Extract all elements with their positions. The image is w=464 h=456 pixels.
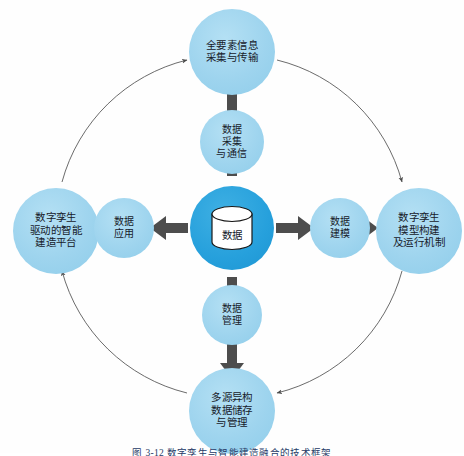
outer-node-line: 与管理 <box>216 417 247 429</box>
outer-node-line: 驱动的智能 <box>30 225 82 237</box>
inner-node-data-application[interactable]: 数据 应用 <box>94 198 154 258</box>
inner-node-data-management[interactable]: 数据 管理 <box>202 285 262 345</box>
outer-node-line: 数字孪生 <box>35 212 77 224</box>
inner-node-data-collection[interactable]: 数据 采集 与通信 <box>200 110 264 174</box>
outer-node-twin-model-construction[interactable]: 数字孪生 模型构建 及运行机制 <box>376 188 462 274</box>
center-node-data[interactable]: 数据 <box>190 186 274 270</box>
inner-node-line: 数据 <box>222 303 243 315</box>
figure-caption: 图 3-12 数字孪生与智能建造融合的技术框架 <box>0 445 464 456</box>
inner-node-line: 管理 <box>222 315 243 327</box>
inner-node-line: 与通信 <box>216 148 247 160</box>
outer-node-heterogeneous-data-storage[interactable]: 多源异构 数据储存 与管理 <box>189 368 275 454</box>
inner-node-line: 数据 <box>330 216 351 228</box>
outer-node-line: 采集与传输 <box>206 52 258 64</box>
outer-node-line: 全要素信息 <box>206 40 258 52</box>
inner-node-line: 数据 <box>222 124 243 136</box>
outer-node-element-info-acquisition[interactable]: 全要素信息 采集与传输 <box>189 9 275 95</box>
inner-node-line: 数据 <box>114 216 135 228</box>
inner-node-line: 建模 <box>330 228 351 240</box>
outer-node-line: 模型构建 <box>398 225 440 237</box>
outer-node-twin-driven-platform[interactable]: 数字孪生 驱动的智能 建造平台 <box>13 188 99 274</box>
outer-node-line: 数字孪生 <box>398 212 440 224</box>
database-cylinder-icon: 数据 <box>207 203 257 253</box>
center-node-label: 数据 <box>207 230 257 242</box>
outer-node-line: 数据储存 <box>211 405 253 417</box>
outer-node-line: 多源异构 <box>211 392 253 404</box>
inner-node-data-modeling[interactable]: 数据 建模 <box>310 198 370 258</box>
inner-node-line: 采集 <box>222 136 243 148</box>
outer-node-line: 建造平台 <box>35 237 77 249</box>
inner-node-line: 应用 <box>114 228 135 240</box>
outer-node-line: 及运行机制 <box>393 237 445 249</box>
